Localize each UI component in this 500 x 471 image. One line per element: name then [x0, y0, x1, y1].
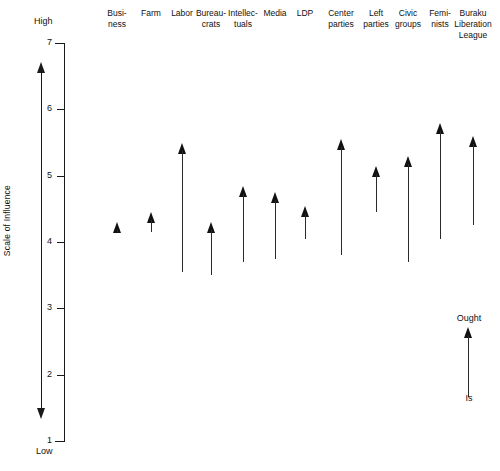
y-tick-label: 5	[38, 170, 52, 180]
arrow-shaft	[341, 147, 342, 255]
arrow-shaft	[151, 220, 152, 232]
column-header-6: Media	[260, 8, 290, 19]
arrow-shaft	[408, 164, 409, 262]
arrow-shaft	[211, 230, 212, 275]
data-arrow-6	[271, 192, 280, 258]
data-arrow-10	[404, 156, 413, 262]
y-tick-mark	[57, 242, 65, 243]
data-arrow-4	[207, 222, 216, 275]
arrow-shaft	[117, 230, 118, 232]
arrow-shaft	[275, 200, 276, 258]
y-tick-label: 7	[38, 37, 52, 47]
data-arrow-3	[178, 143, 187, 272]
y-axis-high-cap: High	[34, 16, 53, 26]
arrow-shaft	[376, 174, 377, 212]
data-arrow-7	[301, 206, 310, 239]
arrow-shaft	[440, 131, 441, 239]
y-tick-mark	[57, 176, 65, 177]
data-arrow-2	[147, 212, 156, 232]
legend-arrow-shaft	[468, 335, 469, 397]
y-tick-label: 1	[38, 435, 52, 445]
column-header-3: Labor	[167, 8, 197, 19]
column-header-9: Left parties	[360, 8, 392, 30]
y-tick-mark	[57, 308, 65, 309]
data-arrow-12	[469, 136, 478, 226]
y-tick-mark	[57, 109, 65, 110]
y-tick-label: 3	[38, 302, 52, 312]
legend-is-label: Is	[448, 393, 490, 403]
y-tick-label: 2	[38, 369, 52, 379]
y-tick-label: 4	[38, 236, 52, 246]
column-header-4: Bureau- crats	[195, 8, 227, 30]
column-header-5: Intellec- tuals	[227, 8, 259, 30]
legend-ought-label: Ought	[448, 313, 490, 323]
y-axis-label: Scale of Influence	[2, 185, 18, 256]
arrow-shaft	[182, 151, 183, 272]
column-header-8: Center parties	[324, 8, 358, 30]
data-arrow-11	[436, 123, 445, 239]
arrow-shaft	[473, 144, 474, 226]
y-tick-label: 6	[38, 103, 52, 113]
legend: Ought Is	[448, 313, 490, 409]
arrow-shaft	[243, 194, 244, 262]
data-arrow-8	[337, 139, 346, 255]
data-arrow-5	[239, 186, 248, 262]
y-tick-mark	[57, 43, 65, 44]
y-axis-low-cap: Low	[36, 446, 53, 456]
data-arrow-9	[372, 166, 381, 212]
y-tick-mark	[57, 441, 65, 442]
column-header-7: LDP	[291, 8, 319, 19]
column-header-12: Buraku Liberation League	[449, 8, 497, 41]
arrow-down-head-icon	[37, 408, 45, 419]
column-header-10: Civic groups	[392, 8, 424, 30]
y-tick-mark	[57, 375, 65, 376]
data-arrow-1	[113, 222, 122, 234]
arrow-shaft	[305, 214, 306, 239]
column-header-1: Busi- ness	[102, 8, 132, 30]
column-header-2: Farm	[136, 8, 166, 19]
influence-scale-chart: Scale of Influence High Low 7654321 Busi…	[0, 0, 500, 471]
